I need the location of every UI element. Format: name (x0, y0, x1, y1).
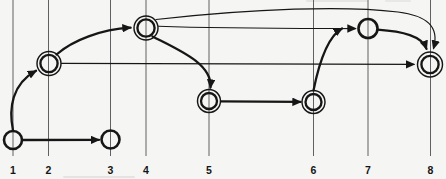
state-node-8 (418, 52, 443, 77)
position-label-5: 5 (206, 164, 212, 176)
graph-canvas: 12345678 (0, 0, 446, 179)
position-label-7: 7 (365, 164, 371, 176)
node-8-inner-circle (421, 56, 438, 73)
position-label-1: 1 (10, 164, 16, 176)
nodes (4, 16, 443, 149)
edge-4-to-7 (159, 26, 356, 28)
edge-1-to-2 (11, 71, 36, 131)
edge-5-to-6 (221, 101, 301, 102)
edge-2-to-8 (62, 63, 415, 64)
scanned-graph-figure: 12345678 (0, 0, 446, 179)
grid-lines (13, 0, 431, 156)
edge-7-to-8 (378, 30, 427, 49)
edge-4-to-5 (153, 37, 211, 88)
node-2-inner-circle (40, 55, 57, 72)
scan-smudge-top (306, 0, 368, 2)
scan-smudge-bottom (63, 176, 135, 178)
position-label-4: 4 (143, 164, 149, 176)
position-label-8: 8 (428, 164, 434, 176)
position-label-2: 2 (46, 164, 52, 176)
scan-speck-top-right (385, 0, 411, 2)
edge-6-to-7 (314, 29, 343, 91)
edge-2-to-4 (57, 28, 131, 55)
position-labels: 12345678 (10, 164, 434, 176)
position-label-3: 3 (108, 164, 114, 176)
edges (11, 9, 435, 140)
position-label-6: 6 (311, 164, 317, 176)
state-node-2 (37, 52, 61, 76)
